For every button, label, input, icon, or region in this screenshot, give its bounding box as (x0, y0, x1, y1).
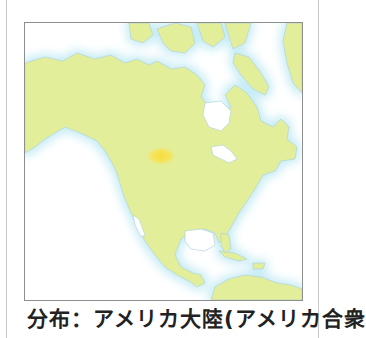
distribution-map (24, 22, 303, 301)
distribution-highlight (145, 146, 177, 166)
gulf-of-mexico (185, 229, 215, 251)
greenland (283, 23, 302, 93)
cuba (219, 251, 247, 261)
arctic-island (197, 23, 225, 47)
arctic-island (129, 23, 153, 43)
south-america-landmass (211, 275, 302, 300)
distribution-caption: 分布：アメリカ大陸(アメリカ合衆 (27, 305, 317, 333)
arctic-island (157, 23, 195, 53)
north-america-map (25, 23, 302, 300)
florida (221, 233, 231, 253)
arctic-island (225, 23, 251, 49)
hispaniola (253, 263, 265, 269)
